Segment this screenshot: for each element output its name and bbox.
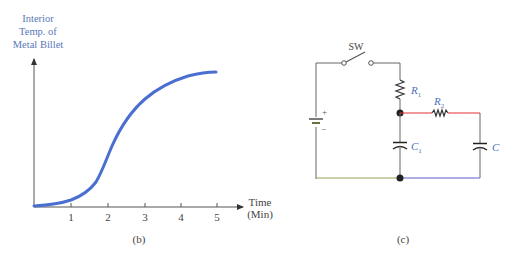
x-axis-label-line-2: (Min) [247,208,273,221]
r2-label: R2 [433,95,445,110]
battery-minus: − [321,124,326,134]
tick-label-1: 1 [68,211,74,223]
x-axis-ticks [71,203,217,207]
figure-canvas: Interior Temp. of Metal Billet 1 2 3 4 5… [0,0,506,258]
panel-c-caption: (c) [397,233,410,246]
panel-b-chart: Interior Temp. of Metal Billet 1 2 3 4 5… [13,13,273,246]
tick-label-4: 4 [178,211,184,223]
tick-label-3: 3 [142,211,148,223]
temperature-curve [34,72,216,206]
y-axis-label-line-1: Interior [22,13,54,24]
tick-label-2: 2 [105,211,111,223]
tick-label-5: 5 [214,211,220,223]
y-axis-label-line-2: Temp. of [19,26,57,37]
panel-c-circuit: SW R1 R2 C C1 [309,41,500,246]
resistor-r2 [432,110,448,116]
battery-plus: + [322,107,327,117]
resistor-r1 [396,80,404,99]
c2-label: C [492,141,500,153]
r1-label: R1 [410,84,422,99]
c1-label: C1 [411,140,422,155]
switch-sw [342,52,374,65]
y-axis-label-line-3: Metal Billet [13,39,64,50]
switch-label: SW [349,41,365,52]
panel-b-caption: (b) [133,233,146,246]
x-axis-label-line-1: Time [249,196,272,208]
node-bottom [397,175,404,182]
battery [309,119,323,123]
